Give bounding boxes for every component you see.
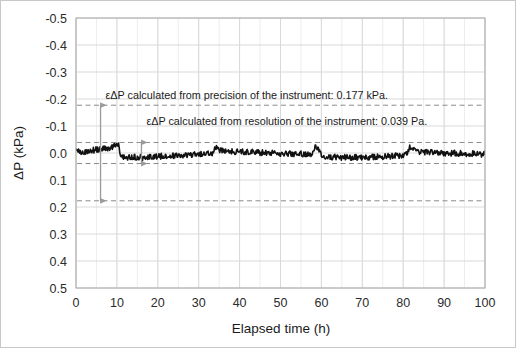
precision-annotation: εΔP calculated from precision of the ins… xyxy=(106,89,389,101)
y-tick-label: 0.5 xyxy=(50,282,67,296)
x-tick-label: 100 xyxy=(475,296,496,310)
y-axis-tick-labels: -0.5-0.4-0.3-0.2-0.10.00.10.20.30.40.5 xyxy=(45,12,67,296)
x-tick-label: 80 xyxy=(396,296,410,310)
y-tick-label: 0.3 xyxy=(50,228,67,242)
y-axis-title: ΔP (kPa) xyxy=(11,126,26,180)
figure-container: -0.5-0.4-0.3-0.2-0.10.00.10.20.30.40.5 0… xyxy=(0,0,516,348)
x-tick-label: 40 xyxy=(233,296,247,310)
y-tick-label: -0.2 xyxy=(45,93,67,107)
y-tick-label: -0.5 xyxy=(45,12,67,26)
y-tick-label: 0.4 xyxy=(50,255,67,269)
y-tick-label: -0.1 xyxy=(45,120,67,134)
y-tick-label: 0.0 xyxy=(50,147,67,161)
x-tick-label: 0 xyxy=(73,296,80,310)
y-tick-label: -0.3 xyxy=(45,66,67,80)
x-tick-label: 90 xyxy=(437,296,451,310)
x-tick-label: 50 xyxy=(274,296,288,310)
x-axis-title: Elapsed time (h) xyxy=(232,321,330,336)
y-tick-label: -0.4 xyxy=(45,39,67,53)
x-tick-label: 30 xyxy=(192,296,206,310)
x-tick-label: 70 xyxy=(355,296,369,310)
y-tick-label: 0.2 xyxy=(50,201,67,215)
x-tick-label: 60 xyxy=(314,296,328,310)
x-axis-tick-labels: 0102030405060708090100 xyxy=(73,296,496,310)
y-tick-label: 0.1 xyxy=(50,174,67,188)
x-tick-label: 20 xyxy=(151,296,165,310)
x-tick-label: 10 xyxy=(110,296,124,310)
chart-plot: -0.5-0.4-0.3-0.2-0.10.00.10.20.30.40.5 0… xyxy=(1,1,516,348)
resolution-annotation: εΔP calculated from resolution of the in… xyxy=(146,115,427,127)
